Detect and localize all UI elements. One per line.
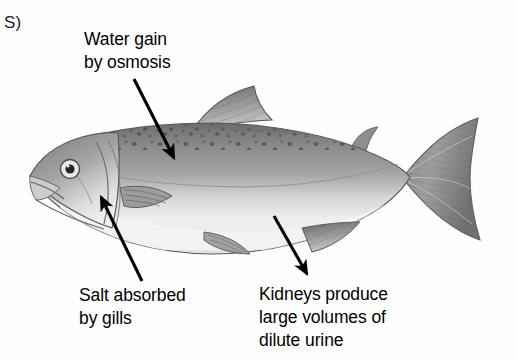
- callout-label-water-gain: Water gain by osmosis: [84, 28, 171, 74]
- anal-fin: [302, 222, 360, 252]
- callout-label-salt-absorbed: Salt absorbed by gills: [79, 284, 186, 330]
- trout-illustration: [0, 0, 516, 361]
- callout-label-kidneys: Kidneys produce large volumes of dilute …: [259, 283, 388, 352]
- caudal-fin: [404, 118, 480, 240]
- fish-eye: [61, 160, 80, 179]
- figure-panel: S): [0, 0, 516, 361]
